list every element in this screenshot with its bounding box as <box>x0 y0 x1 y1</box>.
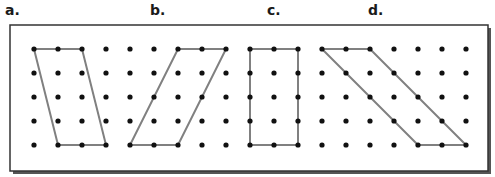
grid-dot <box>391 70 396 75</box>
grid-dot <box>79 118 84 123</box>
grid-dot <box>271 118 276 123</box>
grid-dot <box>295 46 300 51</box>
grid-dot <box>367 46 372 51</box>
grid-dot <box>103 46 108 51</box>
grid-dot <box>271 94 276 99</box>
grid-dot <box>439 94 444 99</box>
grid-dot <box>127 46 132 51</box>
grid-dot <box>223 118 228 123</box>
grid-dot <box>55 46 60 51</box>
grid-dot <box>319 70 324 75</box>
grid-dot <box>223 70 228 75</box>
grid-dot <box>271 142 276 147</box>
grid-dot <box>415 118 420 123</box>
grid-dot <box>103 118 108 123</box>
grid-dot <box>391 118 396 123</box>
grid-dot <box>463 94 468 99</box>
grid-dot <box>295 142 300 147</box>
grid-dot <box>31 118 36 123</box>
grid-dot <box>415 142 420 147</box>
grid-dot <box>247 118 252 123</box>
grid-dot <box>367 70 372 75</box>
grid-dot <box>343 142 348 147</box>
grid-dot <box>31 142 36 147</box>
grid-dot <box>199 142 204 147</box>
grid-dot <box>199 46 204 51</box>
grid-dot <box>175 142 180 147</box>
grid-dot <box>55 142 60 147</box>
grid-dot <box>319 118 324 123</box>
grid-dot <box>391 46 396 51</box>
grid-dot <box>175 118 180 123</box>
grid-dot <box>151 142 156 147</box>
grid-dot <box>79 142 84 147</box>
grid-dot <box>55 70 60 75</box>
grid-dot <box>439 118 444 123</box>
grid-dot <box>55 118 60 123</box>
grid-dot <box>271 70 276 75</box>
grid-dot <box>295 94 300 99</box>
grid-dot <box>319 142 324 147</box>
grid-dot <box>343 70 348 75</box>
grid-dot <box>391 94 396 99</box>
grid-dot <box>247 46 252 51</box>
grid-dot <box>175 70 180 75</box>
grid-dot <box>463 118 468 123</box>
grid-dot <box>415 70 420 75</box>
grid-dot <box>463 70 468 75</box>
grid-dot <box>439 46 444 51</box>
grid-dot <box>343 46 348 51</box>
grid-dot <box>367 142 372 147</box>
grid-dot <box>151 94 156 99</box>
grid-dot <box>151 118 156 123</box>
grid-dot <box>127 70 132 75</box>
grid-dot <box>415 94 420 99</box>
grid-dot <box>175 94 180 99</box>
grid-dot <box>271 46 276 51</box>
grid-dot <box>175 46 180 51</box>
grid-dot <box>247 70 252 75</box>
grid-dot <box>295 70 300 75</box>
grid-dot <box>223 94 228 99</box>
grid-dot <box>55 94 60 99</box>
grid-dot <box>223 142 228 147</box>
grid-dot <box>319 94 324 99</box>
grid-dot <box>247 94 252 99</box>
grid-dot <box>439 70 444 75</box>
grid-dot <box>151 46 156 51</box>
grid-dot <box>367 118 372 123</box>
grid-dot <box>127 118 132 123</box>
grid-dot <box>31 94 36 99</box>
grid-dot <box>79 94 84 99</box>
grid-dot <box>79 46 84 51</box>
grid-dot <box>367 94 372 99</box>
grid-dot <box>199 118 204 123</box>
grid-dot <box>391 142 396 147</box>
geoboard-diagram <box>0 0 495 177</box>
grid-dot <box>247 142 252 147</box>
grid-dot <box>31 46 36 51</box>
grid-dot <box>199 70 204 75</box>
grid-dot <box>103 142 108 147</box>
grid-dot <box>415 46 420 51</box>
grid-dot <box>463 46 468 51</box>
grid-dot <box>127 94 132 99</box>
grid-dot <box>151 70 156 75</box>
grid-dot <box>343 118 348 123</box>
grid-dot <box>223 46 228 51</box>
grid-dot <box>103 94 108 99</box>
grid-dot <box>343 94 348 99</box>
grid-dot <box>127 142 132 147</box>
grid-dot <box>199 94 204 99</box>
grid-dot <box>31 70 36 75</box>
grid-dot <box>319 46 324 51</box>
grid-dot <box>103 70 108 75</box>
grid-dot <box>295 118 300 123</box>
grid-dot <box>439 142 444 147</box>
grid-dot <box>463 142 468 147</box>
grid-dot <box>79 70 84 75</box>
